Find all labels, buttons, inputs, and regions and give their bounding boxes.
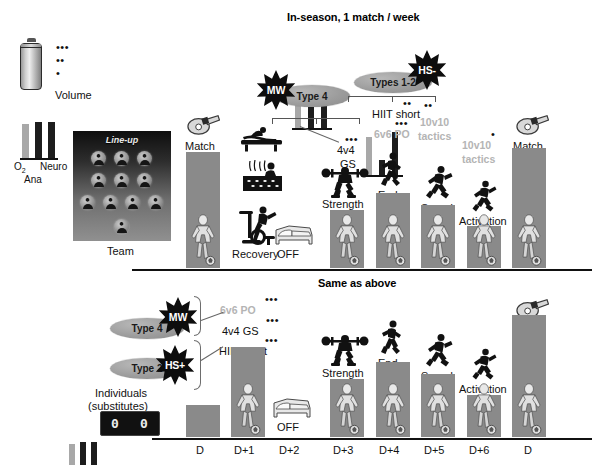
6v6-po-stars: ••• xyxy=(395,120,408,126)
individuals-caption-line1: Individuals xyxy=(95,387,147,399)
top-section-title: In-season, 1 match / week xyxy=(287,11,420,23)
session-bar-top-d6 xyxy=(467,226,501,268)
massage-table-icon xyxy=(236,127,286,153)
session-bar-top-d3 xyxy=(330,210,364,268)
day-label-d-last: D xyxy=(524,444,532,456)
team-lineup-panel: Line-up xyxy=(73,131,171,241)
legend-label-o2: O2 xyxy=(14,161,26,174)
volume-stars-high: ••• xyxy=(56,44,69,50)
runner-sprint-icon xyxy=(424,165,454,201)
sauna-icon xyxy=(240,160,284,194)
lineup-title: Line-up xyxy=(73,135,171,145)
lineup-player xyxy=(137,151,152,166)
lineup-player xyxy=(91,173,106,188)
session-bar-bottom-d6 xyxy=(467,395,501,437)
footballer-icon xyxy=(188,214,218,266)
bottom-6v6-po-label: 6v6 PO xyxy=(220,304,256,316)
battery-icon xyxy=(20,38,42,90)
10v10-tactics-b-label: 10v10 xyxy=(462,139,491,151)
session-bar-bottom-d5 xyxy=(421,374,455,437)
legend-label-ana: Ana xyxy=(24,174,42,185)
session-bar-top-d xyxy=(186,152,220,268)
lineup-player xyxy=(114,173,129,188)
strength-label-bottom: Strength xyxy=(322,367,364,379)
training-periodization-figure: In-season, 1 match / week ••• •• • Volum… xyxy=(0,0,603,465)
lineup-player xyxy=(114,219,129,234)
session-bar-bottom-d4 xyxy=(376,362,410,437)
bottom-4v4-gs-stars: ••• xyxy=(266,317,279,323)
session-bar-bottom-d1 xyxy=(231,347,265,437)
day-label-d: D xyxy=(196,444,204,456)
6v6-po-label: 6v6 PO xyxy=(374,128,410,140)
lineup-player xyxy=(91,151,106,166)
lineup-player xyxy=(114,151,129,166)
lineup-player xyxy=(148,195,163,210)
4v4-gs-stars: ••• xyxy=(345,136,358,142)
10v10-tactics-b-stars: • xyxy=(491,131,495,137)
bottom-6v6-po-stars: ••• xyxy=(265,296,278,302)
hiit-short-stars: •• xyxy=(403,100,412,106)
barbell-squat-icon xyxy=(320,333,370,367)
day-label-d1: D+1 xyxy=(234,444,255,456)
scoreboard-right: 0 xyxy=(140,416,149,431)
session-bar-top-d4 xyxy=(376,193,410,268)
day-label-d5: D+5 xyxy=(424,444,445,456)
10v10-tactics-a-label: 10v10 xyxy=(420,116,449,128)
lineup-player xyxy=(125,195,140,210)
energy-bars-legend-icon xyxy=(20,118,64,160)
top-match-label-d: Match xyxy=(185,140,215,152)
team-caption: Team xyxy=(107,245,134,257)
badge-burst-hs-minus: HS- xyxy=(404,50,450,90)
leader-line-bottom-a xyxy=(201,312,224,321)
bracket-hiit xyxy=(348,96,436,102)
lineup-player xyxy=(103,195,118,210)
off-label-bottom: OFF xyxy=(277,421,299,433)
legend-label-neuro: Neuro xyxy=(40,161,67,172)
lineup-player xyxy=(137,173,152,188)
10v10-tactics-a-label2: tactics xyxy=(418,130,451,142)
session-bar-top-d5 xyxy=(421,205,455,268)
session-bar-bottom-d-last xyxy=(512,315,546,437)
individuals-burst-hs-plus: HS+ xyxy=(152,345,198,385)
off-label-top: OFF xyxy=(277,248,299,260)
4v4-label: 4v4 xyxy=(337,144,355,156)
whistle-icon xyxy=(515,113,549,137)
bracket-individuals-top xyxy=(194,296,201,336)
runner-activation-icon xyxy=(470,180,498,214)
bottom-4v4-gs-label: 4v4 GS xyxy=(222,325,259,337)
10v10-tactics-a-stars: •• xyxy=(424,102,433,108)
bracket-type4 xyxy=(272,118,360,124)
section-divider xyxy=(132,269,592,271)
volume-stars-low: • xyxy=(56,70,60,76)
recovery-label: Recovery xyxy=(232,248,278,260)
whistle-icon xyxy=(186,113,220,137)
individuals-bars-type4 xyxy=(66,434,112,465)
badge-burst-mw: MW xyxy=(252,70,300,110)
day-label-d4: D+4 xyxy=(379,444,400,456)
bed-icon xyxy=(272,395,312,421)
scoreboard-left: 0 xyxy=(111,416,120,431)
day-label-d6: D+6 xyxy=(469,444,490,456)
10v10-tactics-b-label2: tactics xyxy=(462,153,495,165)
barbell-squat-icon xyxy=(320,165,370,199)
x-axis-line xyxy=(152,438,592,440)
runner-activation-icon xyxy=(470,348,498,382)
bracket-individuals-bottom xyxy=(194,340,201,390)
bottom-section-title: Same as above xyxy=(318,277,396,289)
session-bar-bottom-d xyxy=(186,405,220,437)
runner-sprint-icon xyxy=(424,333,454,369)
session-bar-bottom-d3 xyxy=(330,379,364,437)
volume-label: Volume xyxy=(55,89,92,101)
strength-label-top: Strength xyxy=(322,198,364,210)
day-label-d2: D+2 xyxy=(279,444,300,456)
bed-icon xyxy=(274,222,314,248)
runner-endurance-icon xyxy=(378,152,404,188)
bottom-hiit-short-stars: ••• xyxy=(265,337,278,343)
runner-endurance-icon xyxy=(378,320,404,356)
day-label-d3: D+3 xyxy=(333,444,354,456)
session-bar-top-d-last xyxy=(512,148,546,268)
scoreboard-icon: 0 0 xyxy=(100,411,160,436)
lineup-player xyxy=(80,195,95,210)
volume-stars-mid: •• xyxy=(56,57,65,63)
